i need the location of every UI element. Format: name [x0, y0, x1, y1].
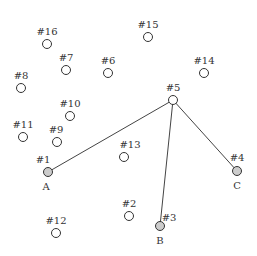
- node-label: #16: [36, 26, 57, 37]
- node-4: #4C: [230, 152, 245, 191]
- node-label: #10: [59, 98, 80, 109]
- node-circle-icon: [200, 69, 209, 78]
- edge-n5-n4: [173, 100, 237, 171]
- nodes-layer: #1A#2#3B#4C#5#6#7#8#9#10#11#12#13#14#15#…: [12, 19, 244, 246]
- node-label: #13: [119, 139, 140, 150]
- node-label: #9: [49, 124, 64, 135]
- node-label: #14: [193, 55, 214, 66]
- node-12: #12: [45, 215, 66, 238]
- node-label: #15: [137, 19, 158, 30]
- node-label: #2: [122, 198, 137, 209]
- node-14: #14: [193, 55, 214, 78]
- node-circle-icon: [44, 168, 53, 177]
- edges-layer: [48, 100, 237, 226]
- node-label: #1: [36, 154, 51, 165]
- node-15: #15: [137, 19, 158, 42]
- edge-n5-n3: [160, 100, 173, 226]
- node-label: #5: [166, 82, 181, 93]
- node-16: #16: [36, 26, 57, 49]
- node-circle-icon: [52, 229, 61, 238]
- node-13: #13: [119, 139, 140, 162]
- node-9: #9: [49, 124, 64, 147]
- node-3: #3B: [156, 212, 177, 246]
- node-label: #11: [12, 119, 33, 130]
- node-circle-icon: [43, 40, 52, 49]
- node-8: #8: [14, 70, 29, 93]
- node-6: #6: [101, 55, 116, 78]
- node-10: #10: [59, 98, 80, 121]
- node-circle-icon: [62, 66, 71, 75]
- node-letter-label: A: [41, 181, 50, 192]
- node-11: #11: [12, 119, 33, 142]
- node-circle-icon: [120, 153, 129, 162]
- node-2: #2: [122, 198, 137, 221]
- edge-n5-n1: [48, 100, 173, 172]
- node-letter-label: B: [156, 235, 163, 246]
- node-letter-label: C: [233, 180, 241, 191]
- node-circle-icon: [169, 96, 178, 105]
- node-circle-icon: [53, 138, 62, 147]
- node-circle-icon: [66, 112, 75, 121]
- node-label: #7: [59, 52, 74, 63]
- node-7: #7: [59, 52, 74, 75]
- node-circle-icon: [19, 133, 28, 142]
- node-label: #8: [14, 70, 29, 81]
- node-circle-icon: [233, 167, 242, 176]
- node-label: #6: [101, 55, 116, 66]
- node-1: #1A: [36, 154, 53, 192]
- node-label: #3: [162, 212, 177, 223]
- node-5: #5: [166, 82, 181, 105]
- node-circle-icon: [144, 33, 153, 42]
- node-circle-icon: [17, 84, 26, 93]
- node-circle-icon: [104, 69, 113, 78]
- network-diagram: #1A#2#3B#4C#5#6#7#8#9#10#11#12#13#14#15#…: [0, 0, 257, 256]
- node-label: #12: [45, 215, 66, 226]
- node-circle-icon: [125, 212, 134, 221]
- node-label: #4: [230, 152, 245, 163]
